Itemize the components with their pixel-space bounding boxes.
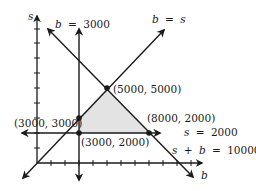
vertex-label-5000-5000: (5000, 5000): [113, 83, 181, 95]
label-b-equals-s: b = s: [152, 13, 186, 25]
vertex-8000-2000: [146, 130, 152, 136]
vertex-label-3000-3000: (3000, 3000): [14, 117, 82, 129]
b-axis-label: b: [201, 169, 208, 181]
label-s-plus-b-equals-10000: s + b = 10000: [172, 144, 256, 156]
vertex-label-3000-2000: (3000, 2000): [81, 136, 149, 148]
vertex-5000-5000: [104, 85, 110, 91]
s-axis-label: s: [28, 10, 34, 22]
s-axis: [34, 16, 40, 163]
label-s-equals-2000: s = 2000: [184, 126, 238, 138]
vertex-label-8000-2000: (8000, 2000): [147, 112, 215, 124]
line-b-equals-s: [23, 30, 164, 178]
vertex-3000-2000: [76, 130, 82, 136]
label-b-equals-3000: b = 3000: [55, 18, 110, 30]
feasible-region-diagram: s b b = 3000 b = s s = 2000 s + b = 1000…: [0, 0, 256, 191]
